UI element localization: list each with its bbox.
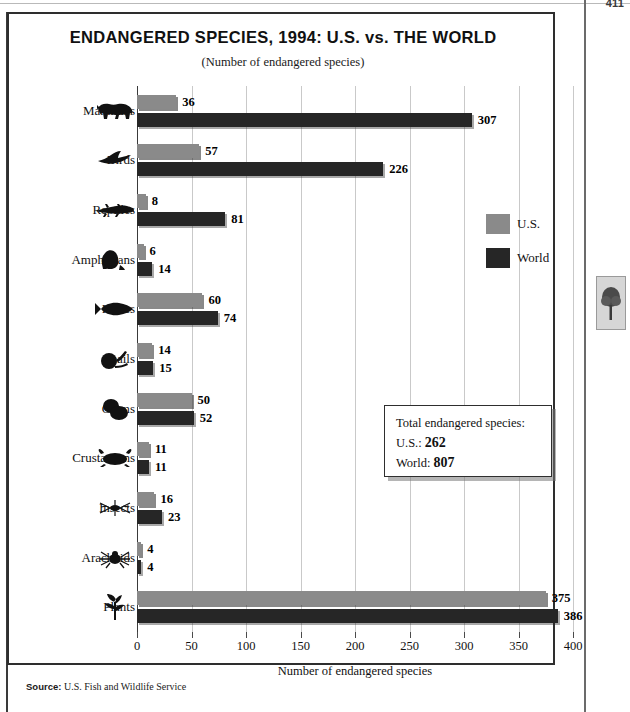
- x-tick-100: [246, 632, 247, 638]
- bar-world[interactable]: [137, 411, 194, 425]
- category-row: Amphibians: [27, 243, 135, 277]
- bar-value-label: 226: [389, 162, 408, 176]
- tree-icon[interactable]: [596, 276, 626, 330]
- bar-us[interactable]: [137, 144, 199, 158]
- category-axis: MammalsBirdsReptilesAmphibiansFishesSnai…: [27, 86, 135, 632]
- legend-label: World: [517, 250, 549, 266]
- bar-row: 6074: [137, 285, 573, 335]
- legend-label: U.S.: [517, 216, 540, 232]
- bar-value-label: 14: [158, 262, 171, 276]
- total-heading: Total endangered species:: [396, 414, 551, 433]
- category-row: Clams: [27, 392, 135, 426]
- bar-world[interactable]: [137, 361, 153, 375]
- bar-value-label: 50: [198, 393, 211, 407]
- page-root: 411 ENDANGERED SPECIES, 1994: U.S. vs. T…: [0, 0, 630, 712]
- category-row: Insects: [27, 491, 135, 525]
- x-tick-label: 0: [134, 639, 140, 654]
- category-label: Crustaceans: [72, 450, 135, 466]
- category-row: Crustaceans: [27, 441, 135, 475]
- bar-us[interactable]: [137, 442, 149, 456]
- x-tick-350: [519, 632, 520, 638]
- category-row: Arachnids: [27, 541, 135, 575]
- bar-world[interactable]: [137, 262, 152, 276]
- category-label: Birds: [107, 152, 135, 168]
- total-summary-box: Total endangered species: U.S.: 262 Worl…: [384, 405, 552, 477]
- bar-world[interactable]: [137, 212, 225, 226]
- bar-world[interactable]: [137, 460, 149, 474]
- bar-us[interactable]: [137, 95, 176, 109]
- x-tick-label: 50: [185, 639, 198, 654]
- x-tick-200: [355, 632, 356, 638]
- category-label: Reptiles: [92, 202, 135, 218]
- category-label: Amphibians: [71, 252, 135, 268]
- legend-swatch-us: [486, 214, 510, 234]
- bar-value-label: 11: [155, 460, 167, 474]
- category-label: Insects: [99, 500, 135, 516]
- bar-value-label: 74: [224, 311, 237, 325]
- bar-world[interactable]: [137, 609, 558, 623]
- x-tick-label: 200: [346, 639, 365, 654]
- category-row: Mammals: [27, 94, 135, 128]
- total-world-label: World:: [396, 456, 430, 470]
- bar-row: 1623: [137, 483, 573, 533]
- total-world-value: 807: [434, 455, 455, 470]
- bar-row: 375386: [137, 582, 573, 632]
- source-prefix: Source:: [26, 681, 61, 692]
- x-axis-title: Number of endangered species: [137, 664, 573, 679]
- category-label: Clams: [102, 401, 135, 417]
- bar-row: 44: [137, 533, 573, 583]
- x-tick-250: [410, 632, 411, 638]
- bar-value-label: 8: [152, 194, 158, 208]
- category-label: Mammals: [83, 103, 135, 119]
- bar-row: 36307: [137, 86, 573, 136]
- gridline-400: [573, 86, 574, 632]
- bar-us[interactable]: [137, 293, 202, 307]
- chart-subtitle: (Number of endangered species): [9, 55, 557, 70]
- bar-world[interactable]: [137, 311, 218, 325]
- x-tick-label: 250: [400, 639, 419, 654]
- bar-us[interactable]: [137, 393, 192, 407]
- bar-value-label: 15: [159, 361, 172, 375]
- x-tick-label: 400: [564, 639, 583, 654]
- x-tick-label: 100: [237, 639, 256, 654]
- x-tick-0: [137, 632, 138, 638]
- bar-us[interactable]: [137, 492, 154, 506]
- bar-us[interactable]: [137, 343, 152, 357]
- legend-item-world[interactable]: World: [486, 248, 549, 268]
- x-tick-50: [192, 632, 193, 638]
- bar-us[interactable]: [137, 542, 141, 556]
- bar-world[interactable]: [137, 510, 162, 524]
- x-tick-150: [301, 632, 302, 638]
- category-label: Fishes: [102, 301, 135, 317]
- bar-us[interactable]: [137, 591, 546, 605]
- bar-value-label: 52: [200, 411, 213, 425]
- x-tick-label: 150: [291, 639, 310, 654]
- bar-value-label: 6: [150, 244, 156, 258]
- total-world: World: 807: [396, 453, 551, 473]
- bar-value-label: 81: [231, 212, 244, 226]
- bar-value-label: 386: [564, 609, 583, 623]
- bar-value-label: 14: [158, 343, 171, 357]
- total-us: U.S.: 262: [396, 433, 551, 453]
- category-row: Plants: [27, 590, 135, 624]
- bar-row: 1415: [137, 334, 573, 384]
- plot-area: Number of endangered species 05010015020…: [137, 86, 573, 632]
- bar-value-label: 4: [147, 560, 153, 574]
- category-label: Snails: [103, 351, 135, 367]
- bar-us[interactable]: [137, 194, 146, 208]
- bar-value-label: 36: [182, 95, 195, 109]
- total-us-label: U.S.:: [396, 436, 422, 450]
- bar-value-label: 60: [208, 293, 221, 307]
- page-number: 411: [606, 0, 624, 9]
- bar-world[interactable]: [137, 162, 383, 176]
- bar-us[interactable]: [137, 244, 144, 258]
- x-tick-label: 350: [509, 639, 528, 654]
- category-label: Arachnids: [82, 550, 135, 566]
- bar-row: 57226: [137, 136, 573, 186]
- bar-world[interactable]: [137, 560, 141, 574]
- legend-item-us[interactable]: U.S.: [486, 214, 549, 234]
- bar-value-label: 16: [160, 492, 173, 506]
- bar-world[interactable]: [137, 113, 472, 127]
- total-us-value: 262: [425, 435, 446, 450]
- bar-value-label: 4: [147, 542, 153, 556]
